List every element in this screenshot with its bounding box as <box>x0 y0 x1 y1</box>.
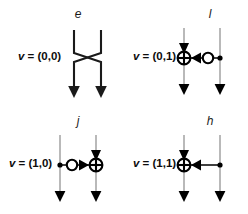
panel-l-diagram <box>124 0 248 107</box>
panel-e-diagram <box>0 0 124 107</box>
left-triangle-arrow-h <box>191 160 201 171</box>
filled-dot-control-h <box>217 162 222 167</box>
wire-right-e <box>74 30 101 89</box>
arrowhead-right-l <box>215 84 226 95</box>
arrowhead-right-h <box>215 191 226 202</box>
panel-l: l v = (0,1) <box>124 0 248 107</box>
arrowhead-left-j <box>55 191 66 202</box>
open-circle-control-l <box>203 53 213 63</box>
arrowhead-left-h <box>179 191 190 202</box>
open-circle-control-j <box>67 160 77 170</box>
panel-e: e v = (0,0) <box>0 0 124 107</box>
arrowhead-left-l <box>179 84 190 95</box>
crossed-circle-gate-l <box>178 52 191 65</box>
left-triangle-arrow-l <box>191 53 201 64</box>
arrowhead-left-e <box>68 86 80 98</box>
panel-h-diagram <box>124 107 248 214</box>
wire-left-e <box>74 30 101 89</box>
panel-h: h v = (1,1) <box>124 107 248 214</box>
filled-dot-control-j <box>57 162 62 167</box>
arrowhead-right-e <box>95 86 107 98</box>
panel-j: j v = (1,0) <box>0 107 124 214</box>
filled-dot-control-l <box>217 55 222 60</box>
crossed-circle-gate-j <box>90 159 103 172</box>
diagram-figure: e v = (0,0) l v = (0,1) <box>0 0 248 214</box>
arrowhead-right-j <box>91 191 102 202</box>
right-triangle-arrow-j <box>79 160 89 171</box>
crossed-circle-gate-h <box>178 159 191 172</box>
panel-j-diagram <box>0 107 124 214</box>
